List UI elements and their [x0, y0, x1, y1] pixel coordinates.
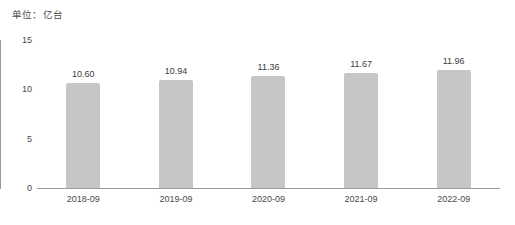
bar-value-label: 10.60 [72, 69, 95, 79]
y-axis-tick-label: 5 [2, 134, 32, 144]
y-axis-tick-labels: 15 10 5 0 [0, 0, 32, 225]
bars-layer: 10.60 2018-09 10.94 2019-09 11.36 2020-0… [37, 0, 500, 225]
x-axis-category-label: 2018-09 [67, 194, 100, 205]
x-axis-category-label: 2021-09 [345, 194, 378, 205]
x-axis-category-label: 2019-09 [159, 194, 192, 205]
y-axis-tick-label: 0 [2, 183, 32, 193]
y-axis-tick-label: 15 [2, 35, 32, 45]
bar[interactable] [66, 83, 100, 188]
bar-group: 10.60 2018-09 [37, 0, 130, 225]
x-axis-category-label: 2020-09 [252, 194, 285, 205]
bar[interactable] [251, 76, 285, 188]
bar-value-label: 11.36 [258, 62, 280, 72]
bar-group: 11.67 2021-09 [315, 0, 408, 225]
bar[interactable] [437, 70, 471, 188]
bar-chart: 单位：亿台 15 10 5 0 10.60 2018-09 10.94 2019… [0, 0, 515, 225]
bar-value-label: 11.96 [443, 56, 465, 66]
bar[interactable] [159, 80, 193, 188]
bar-value-label: 11.67 [350, 59, 372, 69]
bar[interactable] [344, 73, 378, 188]
bar-group: 10.94 2019-09 [130, 0, 223, 225]
bar-group: 11.36 2020-09 [222, 0, 315, 225]
bar-value-label: 10.94 [165, 66, 188, 76]
y-axis-tick-label: 10 [2, 84, 32, 94]
bar-group: 11.96 2022-09 [407, 0, 500, 225]
x-axis-category-label: 2022-09 [437, 194, 470, 205]
